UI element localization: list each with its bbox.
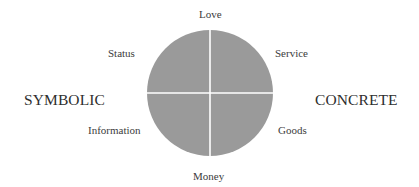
axis-label-symbolic: SYMBOLIC xyxy=(24,91,105,109)
axis-label-concrete: CONCRETE xyxy=(315,91,398,109)
label-service: Service xyxy=(275,47,308,60)
label-information: Information xyxy=(88,124,141,137)
label-love: Love xyxy=(199,8,222,21)
label-status: Status xyxy=(108,47,135,60)
label-money: Money xyxy=(193,170,224,183)
label-goods: Goods xyxy=(278,124,307,137)
resource-exchange-diagram: Love Money Status Service Information Go… xyxy=(0,0,419,187)
